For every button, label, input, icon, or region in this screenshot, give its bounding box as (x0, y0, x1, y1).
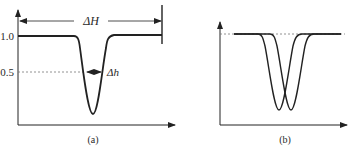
delta-H-label: ΔH (82, 14, 100, 28)
y-tick-0-5: 0.5 (0, 66, 14, 78)
caption-a: (a) (87, 134, 98, 146)
panel-a: 1.0 0.5 ΔH Δh (a) (0, 5, 175, 146)
transmission-curve-1 (234, 34, 341, 110)
transmission-curve-2 (234, 34, 341, 110)
caption-b: (b) (279, 134, 291, 146)
panel-b: (b) (220, 22, 347, 146)
figure: 1.0 0.5 ΔH Δh (a) (b) (0, 0, 351, 151)
transmission-curve (18, 35, 162, 114)
delta-h-label: Δh (106, 66, 119, 78)
y-tick-1-0: 1.0 (0, 30, 14, 42)
